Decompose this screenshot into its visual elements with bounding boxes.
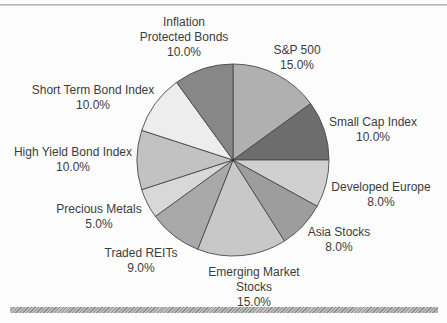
pie-label-asia-stocks: Asia Stocks8.0%	[308, 225, 371, 255]
pie-label-precious-metals: Precious Metals5.0%	[56, 202, 141, 232]
pie-label-line: S&P 500	[273, 43, 320, 58]
pie-label-short-term-bond-index: Short Term Bond Index10.0%	[32, 83, 155, 113]
pie-label-emerging-market-stocks: Emerging MarketStocks15.0%	[208, 265, 299, 310]
pie-label-line: 15.0%	[273, 58, 320, 73]
pie-center-dot	[231, 158, 234, 161]
pie-label-line: Stocks	[208, 280, 299, 295]
pie-label-developed-europe: Developed Europe8.0%	[331, 180, 430, 210]
pie-label-line: Traded REITs	[105, 246, 178, 261]
pie-label-line: 10.0%	[32, 98, 155, 113]
pie-label-inflation-protected-bonds: InflationProtected Bonds10.0%	[140, 15, 229, 60]
asset-allocation-pie-figure: S&P 50015.0%Small Cap Index10.0%Develope…	[0, 0, 447, 323]
pie-label-line: 5.0%	[56, 217, 141, 232]
pie-label-line: 10.0%	[140, 45, 229, 60]
pie-label-line: Precious Metals	[56, 202, 141, 217]
pie-label-line: High Yield Bond Index	[14, 145, 132, 160]
pie-label-line: Small Cap Index	[329, 115, 417, 130]
pie-label-line: 8.0%	[331, 195, 430, 210]
pie-label-line: Protected Bonds	[140, 30, 229, 45]
pie-label-line: Inflation	[140, 15, 229, 30]
pie-label-line: 8.0%	[308, 240, 371, 255]
pie-label-line: 10.0%	[14, 160, 132, 175]
pie-label-line: 9.0%	[105, 261, 178, 276]
pie-label-small-cap-index: Small Cap Index10.0%	[329, 115, 417, 145]
pie-label-line: Emerging Market	[208, 265, 299, 280]
pie-label-line: Asia Stocks	[308, 225, 371, 240]
bottom-divider	[10, 307, 438, 313]
pie-label-line: 10.0%	[329, 130, 417, 145]
pie-label-line: Short Term Bond Index	[32, 83, 155, 98]
pie-label-s-p-500: S&P 50015.0%	[273, 43, 320, 73]
pie-label-high-yield-bond-index: High Yield Bond Index10.0%	[14, 145, 132, 175]
pie-label-line: Developed Europe	[331, 180, 430, 195]
pie-label-traded-reits: Traded REITs9.0%	[105, 246, 178, 276]
